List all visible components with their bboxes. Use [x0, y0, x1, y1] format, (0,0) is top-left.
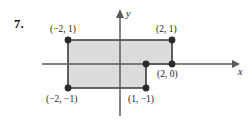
y-axis-label: y [126, 9, 130, 19]
vertex-dot-top-right [169, 37, 176, 44]
figure-container: 7. (−2, 1) (2, 1) (2, 0) (−2, −1) (1, −1… [0, 0, 251, 122]
y-axis-arrow-icon [116, 9, 124, 18]
vertex-dot-right-on-axis [169, 61, 176, 68]
point-label-right-on-axis: (2, 0) [157, 70, 178, 80]
point-label-bottom-left: (−2, −1) [46, 95, 77, 105]
point-label-bottom-right: (1, −1) [128, 95, 154, 105]
vertex-dot-bottom-right [143, 85, 150, 92]
vertex-dot-top-left [65, 37, 72, 44]
point-label-top-right: (2, 1) [156, 25, 177, 35]
vertex-dot-bottom-left [65, 85, 72, 92]
point-label-top-left: (−2, 1) [50, 25, 76, 35]
x-axis-label: x [238, 67, 242, 77]
vertex-dot-inner-corner [143, 61, 150, 68]
